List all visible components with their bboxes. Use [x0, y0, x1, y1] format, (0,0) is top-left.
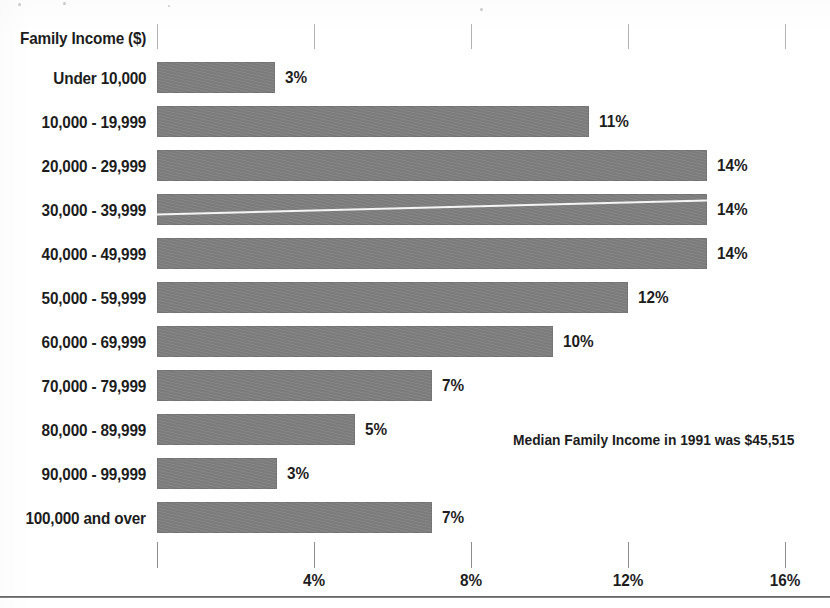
value-label-50000-59999: 12% [638, 289, 669, 307]
bar-texture [157, 194, 707, 225]
category-label-under-10000: Under 10,000 [53, 70, 146, 88]
value-label-under-10000: 3% [285, 69, 307, 87]
bar-50000-59999 [157, 282, 628, 313]
bar-80000-89999 [157, 414, 355, 445]
bar-texture [157, 62, 275, 93]
bar-texture [157, 150, 707, 181]
top-tick-0 [157, 24, 158, 49]
bar-chart-plot-area: Family Income ($) Under 10,000 10,000 - … [0, 0, 830, 608]
bar-texture [157, 414, 355, 445]
category-label-50000-59999: 50,000 - 59,999 [42, 290, 146, 308]
y-axis-title: Family Income ($) [20, 30, 146, 48]
scan-line-artifact [157, 199, 707, 216]
category-label-20000-29999: 20,000 - 29,999 [42, 158, 146, 176]
category-label-10000-19999: 10,000 - 19,999 [42, 114, 146, 132]
top-tick-16 [785, 24, 786, 49]
bottom-tick-4 [314, 542, 315, 568]
category-label-90000-99999: 90,000 - 99,999 [42, 466, 146, 484]
bar-70000-79999 [157, 370, 432, 401]
median-income-annotation: Median Family Income in 1991 was $45,515 [513, 431, 795, 449]
value-label-30000-39999: 14% [717, 201, 748, 219]
value-label-100000-and-over: 7% [442, 509, 464, 527]
top-tick-4 [314, 24, 315, 49]
bar-under-10000 [157, 62, 275, 93]
footer-divider [0, 596, 830, 598]
value-label-10000-19999: 11% [599, 113, 629, 131]
category-label-70000-79999: 70,000 - 79,999 [42, 378, 146, 396]
category-label-40000-49999: 40,000 - 49,999 [42, 246, 146, 264]
category-label-60000-69999: 60,000 - 69,999 [42, 334, 146, 352]
bar-30000-39999 [157, 194, 707, 225]
bottom-tick-12 [628, 542, 629, 568]
bottom-tick-16 [785, 542, 786, 568]
x-tick-label-16: 16% [770, 572, 801, 590]
value-label-40000-49999: 14% [717, 245, 748, 263]
value-label-60000-69999: 10% [563, 333, 594, 351]
bar-texture [157, 326, 553, 357]
x-tick-label-8: 8% [460, 572, 482, 590]
bar-texture [157, 502, 432, 533]
top-tick-12 [628, 24, 629, 49]
bar-20000-29999 [157, 150, 707, 181]
value-label-80000-89999: 5% [365, 421, 387, 439]
bar-texture [157, 106, 589, 137]
x-tick-label-4: 4% [303, 572, 325, 590]
bar-60000-69999 [157, 326, 553, 357]
bar-texture [157, 370, 432, 401]
bar-texture [157, 238, 707, 269]
bar-90000-99999 [157, 458, 277, 489]
top-tick-8 [471, 24, 472, 49]
value-label-70000-79999: 7% [442, 377, 464, 395]
bar-texture [157, 458, 277, 489]
bar-texture [157, 282, 628, 313]
bar-10000-19999 [157, 106, 589, 137]
bar-100000-and-over [157, 502, 432, 533]
bar-40000-49999 [157, 238, 707, 269]
bottom-tick-0 [157, 542, 158, 568]
value-label-90000-99999: 3% [287, 465, 309, 483]
category-label-30000-39999: 30,000 - 39,999 [42, 202, 146, 220]
chart-page: Family Income ($) Under 10,000 10,000 - … [0, 0, 830, 608]
category-label-80000-89999: 80,000 - 89,999 [42, 422, 146, 440]
x-tick-label-12: 12% [613, 572, 644, 590]
category-label-100000-and-over: 100,000 and over [26, 510, 146, 528]
bottom-tick-8 [471, 542, 472, 568]
value-label-20000-29999: 14% [717, 157, 748, 175]
